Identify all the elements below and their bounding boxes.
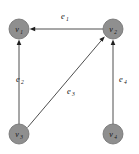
node-label-v1-subscript: 1 [20,29,23,35]
node-v4[interactable]: v 4 [103,124,123,144]
node-label-v1: v [15,25,19,34]
edge-label-e3-subscript: 3 [71,91,75,97]
diagram-canvas: v 1 v 2 v 3 v 4 e 1 e 2 e 3 [0,0,139,154]
node-v2[interactable]: v 2 [103,19,123,39]
node-v1[interactable]: v 1 [9,19,29,39]
node-label-v3-subscript: 3 [19,134,23,140]
arrowhead-e1 [30,27,36,32]
arrowhead-e4 [111,39,116,45]
arrowhead-e3 [99,36,105,41]
edge-label-e3: e 3 [67,86,75,97]
edge-label-e2: e 2 [16,74,24,85]
node-label-v2: v [109,25,113,34]
node-label-v3: v [15,130,19,139]
edge-label-e4-base: e [119,74,123,84]
edge-label-e2-base: e [16,74,20,84]
node-v3[interactable]: v 3 [9,124,29,144]
directed-graph: v 1 v 2 v 3 v 4 e 1 e 2 e 3 [0,0,139,154]
node-label-v4: v [109,130,113,139]
node-label-v2-subscript: 2 [114,29,117,35]
edge-label-e4-subscript: 4 [124,79,127,85]
edge-label-e4: e 4 [119,74,127,85]
edge-group [17,27,116,128]
edge-label-e3-base: e [67,86,71,96]
node-circle-v3[interactable] [9,124,29,144]
node-circle-v4[interactable] [103,124,123,144]
node-circle-v1[interactable] [9,19,29,39]
arrowhead-e2 [17,39,22,45]
node-circle-v2[interactable] [103,19,123,39]
edge-line-e3 [28,39,104,128]
edge-label-e1-subscript: 1 [66,16,69,22]
node-label-v4-subscript: 4 [114,134,117,140]
edge-label-e1: e 1 [61,11,69,22]
edge-label-e1-base: e [61,11,65,21]
edge-label-e2-subscript: 2 [21,79,24,85]
